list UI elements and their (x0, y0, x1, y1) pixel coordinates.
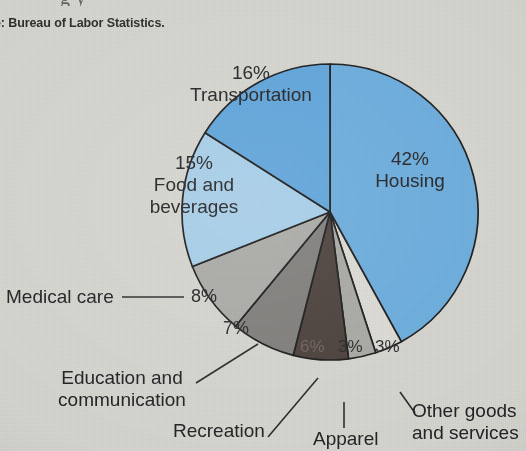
slice-label-food-and-beverages: 15% Food and beverages (128, 152, 260, 218)
callout-other-line1: Other goods (412, 400, 526, 422)
callout-other-line2: and services (412, 422, 526, 444)
slice-label-transportation: 16% Transportation (176, 62, 326, 106)
slice-pct-education: 7% (223, 318, 249, 339)
callout-label-education: Education and communication (38, 367, 206, 412)
callout-education-line1: Education and (38, 367, 206, 389)
slice-pct-other-goods: 3% (375, 337, 400, 357)
slice-name-food-line2: beverages (128, 196, 260, 218)
pie-chart: 42% Housing 16% Transportation 15% Food … (0, 0, 526, 451)
slice-pct-medical-care: 8% (191, 286, 217, 307)
callout-label-apparel: Apparel (313, 428, 379, 450)
callout-label-recreation: Recreation (173, 420, 265, 442)
callout-education-line2: communication (38, 389, 206, 411)
slice-name-food-line1: Food and (128, 174, 260, 196)
slice-pct-housing: 42% (350, 148, 470, 170)
slice-label-housing: 42% Housing (350, 148, 470, 192)
callout-label-other-goods: Other goods and services (412, 400, 526, 445)
slice-pct-food-and-beverages: 15% (128, 152, 260, 174)
slice-name-transportation: Transportation (176, 84, 326, 106)
callout-label-medical-care: Medical care (6, 286, 114, 308)
slice-pct-apparel: 3% (338, 337, 363, 357)
slice-pct-transportation: 16% (176, 62, 326, 84)
slice-pct-recreation: 6% (300, 337, 325, 357)
slice-name-housing: Housing (350, 170, 470, 192)
